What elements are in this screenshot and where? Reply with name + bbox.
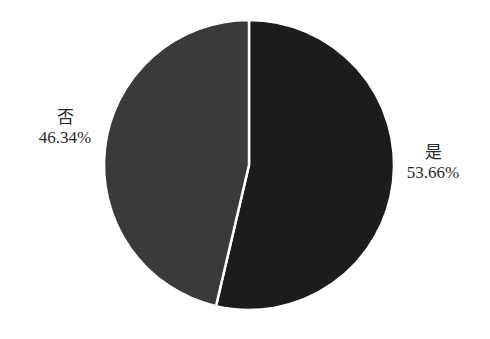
pie-slices bbox=[104, 20, 394, 310]
slice-label-no: 否 46.34% bbox=[30, 108, 100, 148]
slice-label-yes-category: 是 bbox=[398, 143, 468, 163]
slice-label-yes-percent: 53.66% bbox=[398, 163, 468, 183]
slice-label-no-percent: 46.34% bbox=[30, 128, 100, 148]
pie-slice-no bbox=[104, 20, 249, 306]
slice-label-yes: 是 53.66% bbox=[398, 143, 468, 183]
slice-label-no-category: 否 bbox=[30, 108, 100, 128]
